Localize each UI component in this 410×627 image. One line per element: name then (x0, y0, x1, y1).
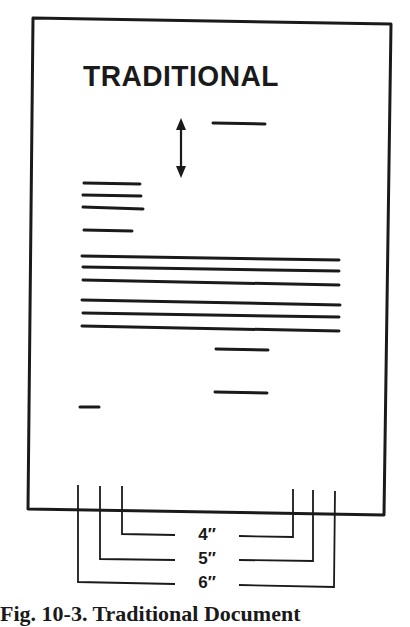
dimension-label-6in: 6″ (187, 574, 227, 592)
spacing-double-arrow-icon (176, 118, 186, 178)
body-paragraph-2 (82, 300, 340, 331)
inside-address-block (83, 183, 143, 209)
dimension-label-5in: 5″ (187, 550, 227, 568)
body-paragraph-1 (82, 256, 339, 285)
figure-caption: Fig. 10-3. Traditional Document (0, 601, 300, 627)
complimentary-close-line (216, 349, 268, 350)
dimension-label-4in: 4″ (187, 526, 227, 544)
dimension-bracket-5in-right (239, 490, 313, 561)
dimension-bracket-5in-left (100, 486, 175, 560)
salutation-line (84, 230, 132, 231)
signature-line (215, 392, 267, 393)
letter-style-title: TRADITIONAL (83, 60, 279, 93)
dimension-bracket-6in-right (239, 491, 335, 587)
date-line (213, 123, 265, 124)
